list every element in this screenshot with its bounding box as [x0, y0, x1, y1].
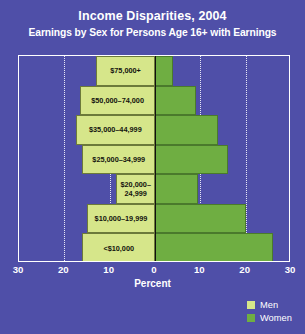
bar-women: [155, 115, 218, 145]
bar-men: <$10,000: [82, 233, 155, 261]
bar-men: $20,000– 24,999: [116, 174, 155, 204]
legend-swatch-icon: [247, 301, 255, 309]
chart-row: $75,000+: [19, 56, 289, 86]
bar-women: [155, 56, 173, 86]
bar-women: [155, 233, 273, 261]
chart-legend: MenWomen: [247, 300, 292, 326]
bar-women: [155, 145, 228, 175]
bar-women: [155, 174, 198, 204]
x-tick-label: 20: [58, 264, 69, 275]
bar-category-label: $35,000–44,999: [86, 125, 145, 134]
bar-category-label: <$10,000: [100, 244, 137, 253]
chart-row: $25,000–34,999: [19, 145, 289, 175]
legend-swatch-icon: [247, 314, 255, 322]
bar-category-label: $50,000–74,000: [88, 96, 147, 105]
chart-row: $10,000–19,999: [19, 204, 289, 234]
bar-men: $10,000–19,999: [87, 204, 155, 234]
bar-men: $25,000–34,999: [82, 145, 155, 175]
bar-men: $35,000–44,999: [76, 115, 155, 145]
x-tick-label: 20: [239, 264, 250, 275]
x-tick-label: 10: [194, 264, 205, 275]
chart-row: $35,000–44,999: [19, 115, 289, 145]
bar-category-label: $10,000–19,999: [92, 214, 151, 223]
chart-row: $20,000– 24,999: [19, 174, 289, 204]
x-tick-label: 0: [151, 264, 156, 275]
x-tick-label: 30: [13, 264, 24, 275]
bar-women: [155, 204, 246, 234]
plot-area: $75,000+$50,000–74,000$35,000–44,999$25,…: [18, 55, 290, 262]
bar-category-label: $25,000–34,999: [89, 155, 148, 164]
zero-axis-line: [155, 56, 156, 261]
x-axis-title: Percent: [0, 278, 305, 289]
x-tick-label: 10: [103, 264, 114, 275]
bar-category-label: $75,000+: [107, 66, 144, 75]
legend-item: Women: [247, 313, 292, 323]
bar-women: [155, 86, 196, 116]
page-title: Income Disparities, 2004: [0, 9, 305, 23]
legend-label: Men: [260, 300, 278, 310]
bar-men: $75,000+: [96, 56, 155, 86]
plot-inner: $75,000+$50,000–74,000$35,000–44,999$25,…: [19, 56, 289, 261]
legend-label: Women: [260, 313, 292, 323]
chart-row: $50,000–74,000: [19, 86, 289, 116]
x-tick-label: 30: [285, 264, 296, 275]
chart-subtitle: Earnings by Sex for Persons Age 16+ with…: [0, 27, 305, 38]
legend-item: Men: [247, 300, 292, 310]
chart-row: <$10,000: [19, 233, 289, 261]
chart-canvas: Income Disparities, 2004 Earnings by Sex…: [0, 0, 305, 334]
bar-men: $50,000–74,000: [80, 86, 155, 116]
bar-category-label: $20,000– 24,999: [118, 180, 154, 198]
